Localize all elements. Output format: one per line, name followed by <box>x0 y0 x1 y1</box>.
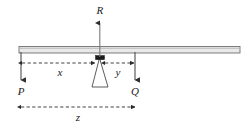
beam-body <box>19 47 240 54</box>
force-r-label: R <box>95 4 103 16</box>
dimension-z: z <box>21 107 135 123</box>
dimension-y: y <box>105 63 134 78</box>
dimension-z-label: z <box>75 111 81 123</box>
force-p-label: P <box>17 85 25 97</box>
fulcrum-triangle <box>92 58 108 87</box>
dimension-x: x <box>22 63 95 78</box>
lever-diagram-canvas: R P Q x y z <box>0 0 250 125</box>
lever-free-body-diagram: R P Q x y z <box>0 0 250 125</box>
dimension-x-label: x <box>57 66 63 78</box>
force-q-label: Q <box>131 85 139 97</box>
beam <box>19 47 240 54</box>
dimension-y-label: y <box>115 66 121 78</box>
fulcrum <box>92 56 108 88</box>
